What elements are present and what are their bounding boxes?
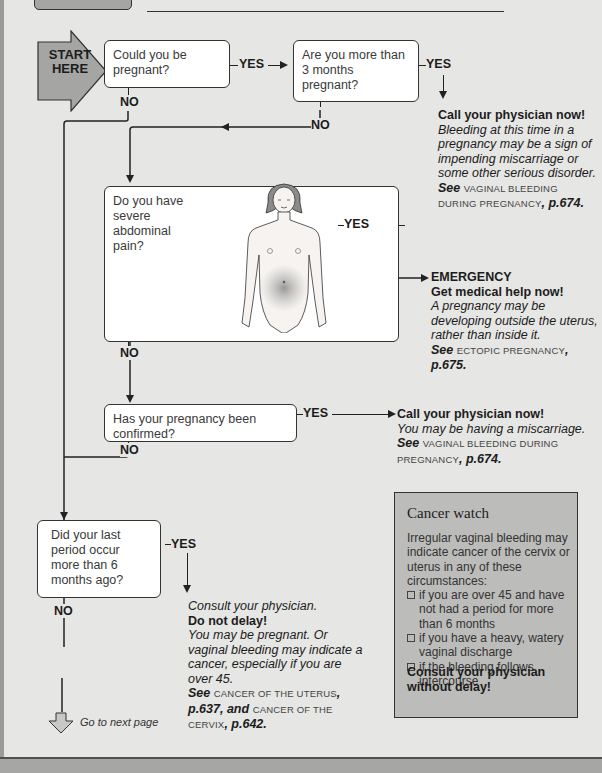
checkbox-icon bbox=[407, 634, 415, 642]
question-box-last-period: Did your last period occur more than 6 m… bbox=[37, 520, 161, 598]
connector bbox=[320, 102, 321, 107]
arrow-right-icon bbox=[388, 410, 396, 418]
arrow-down-icon bbox=[183, 585, 191, 593]
q5-no-label: NO bbox=[54, 604, 73, 618]
connector bbox=[399, 225, 405, 226]
connector bbox=[187, 553, 188, 585]
question-box-pregnancy-confirmed: Has your pregnancy been confirmed? bbox=[104, 404, 297, 442]
arrow-left-icon bbox=[221, 123, 229, 131]
reference-link[interactable]: ECTOPIC PREGNANCY bbox=[457, 345, 565, 356]
connector bbox=[443, 75, 444, 91]
outcome-q5-yes: Consult your physician. Do not delay! Yo… bbox=[188, 599, 368, 733]
q2-yes-label: YES bbox=[426, 57, 451, 71]
arrow-down-icon bbox=[60, 512, 68, 520]
cancer-watch-title: Cancer watch bbox=[407, 505, 489, 522]
q4-yes-label: YES bbox=[303, 406, 328, 420]
q5-yes-label: YES bbox=[171, 537, 196, 551]
female-figure-illustration bbox=[232, 183, 338, 333]
next-page-arrow-icon[interactable] bbox=[48, 712, 74, 734]
list-item: if you have a heavy, watery vaginal disc… bbox=[407, 631, 575, 660]
outcome-q2-yes: Call your physician now! Bleeding at thi… bbox=[438, 108, 598, 212]
cancer-watch-box: Cancer watch Irregular vaginal bleeding … bbox=[394, 492, 578, 718]
connector bbox=[332, 414, 389, 415]
q3-yes-label: YES bbox=[344, 217, 369, 231]
arrow-down-icon bbox=[126, 175, 134, 183]
list-item: if you are over 45 and have not had a pe… bbox=[407, 588, 575, 631]
q4-no-label: NO bbox=[120, 443, 139, 457]
arrow-down-icon bbox=[439, 91, 447, 99]
cancer-watch-cta: Consult your physician without delay! bbox=[407, 665, 575, 695]
page-bottom-edge bbox=[0, 757, 602, 773]
checkbox-icon bbox=[407, 591, 415, 599]
outcome-q3-yes: EMERGENCY Get medical help now! A pregna… bbox=[431, 270, 599, 373]
arrow-down-icon bbox=[126, 395, 134, 403]
question-box-more-than-3-months: Are you more than 3 months pregnant? bbox=[293, 40, 419, 102]
outcome-q4-yes: Call your physician now! You may be havi… bbox=[397, 407, 602, 467]
go-to-next-page-link[interactable]: Go to next page bbox=[80, 716, 158, 728]
connector bbox=[419, 65, 426, 66]
q3-no-label: NO bbox=[120, 346, 139, 360]
q2-no-label: NO bbox=[311, 118, 330, 132]
arrow-right-icon bbox=[421, 274, 429, 282]
reference-link[interactable]: CANCER OF THE UTERUS bbox=[214, 688, 337, 699]
